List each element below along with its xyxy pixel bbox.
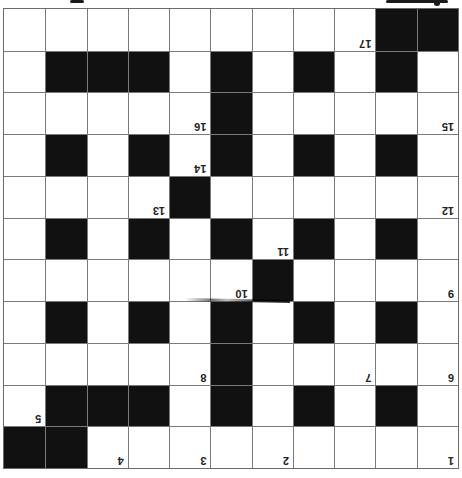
grid-cell[interactable] <box>252 343 293 385</box>
grid-cell[interactable] <box>417 301 458 343</box>
grid-cell[interactable] <box>169 385 210 427</box>
grid-cell[interactable] <box>87 218 128 260</box>
black-cell <box>128 301 169 343</box>
grid-cell[interactable]: 1 <box>417 426 458 468</box>
grid-cell[interactable] <box>293 343 334 385</box>
grid-cell[interactable] <box>87 134 128 176</box>
grid-cell[interactable]: 8 <box>169 343 210 385</box>
grid-cell[interactable]: 14 <box>169 134 210 176</box>
grid-cell[interactable] <box>334 426 375 468</box>
grid-cell[interactable] <box>210 426 251 468</box>
grid-cell[interactable] <box>293 92 334 134</box>
grid-cell[interactable]: 6 <box>417 343 458 385</box>
grid-cell[interactable]: 2 <box>252 426 293 468</box>
grid-cell[interactable] <box>87 343 128 385</box>
black-cell <box>375 301 416 343</box>
grid-cell[interactable]: 17 <box>334 9 375 51</box>
grid-cell[interactable]: 9 <box>417 259 458 301</box>
grid-cell[interactable] <box>417 218 458 260</box>
grid-cell[interactable] <box>334 176 375 218</box>
grid-cell[interactable] <box>252 134 293 176</box>
grid-cell[interactable] <box>417 134 458 176</box>
cut-off-heading-fragment-left <box>70 0 84 3</box>
grid-cell[interactable] <box>252 301 293 343</box>
grid-cell[interactable] <box>4 259 45 301</box>
grid-cell[interactable] <box>87 259 128 301</box>
grid-cell[interactable] <box>334 259 375 301</box>
grid-cell[interactable] <box>375 343 416 385</box>
grid-cell[interactable] <box>252 176 293 218</box>
grid-cell[interactable] <box>4 92 45 134</box>
grid-cell[interactable] <box>334 134 375 176</box>
grid-cell[interactable] <box>4 176 45 218</box>
grid-cell[interactable] <box>87 301 128 343</box>
grid-cell[interactable] <box>128 343 169 385</box>
black-cell <box>293 301 334 343</box>
grid-cell[interactable] <box>87 9 128 51</box>
grid-cell[interactable] <box>128 259 169 301</box>
grid-cell[interactable] <box>334 92 375 134</box>
grid-cell[interactable]: 11 <box>252 218 293 260</box>
grid-cell[interactable]: 16 <box>169 92 210 134</box>
grid-cell[interactable] <box>334 301 375 343</box>
grid-cell[interactable] <box>169 218 210 260</box>
black-cell <box>4 426 45 468</box>
clue-number: 14 <box>194 163 206 174</box>
grid-cell[interactable] <box>4 51 45 93</box>
clue-number: 15 <box>442 121 454 132</box>
grid-cell[interactable] <box>252 92 293 134</box>
grid-cell[interactable] <box>252 51 293 93</box>
grid-cell[interactable] <box>4 9 45 51</box>
grid-cell[interactable] <box>375 259 416 301</box>
grid-cell[interactable] <box>87 176 128 218</box>
grid-cell[interactable] <box>169 9 210 51</box>
grid-cell[interactable] <box>45 176 86 218</box>
grid-cell[interactable] <box>45 259 86 301</box>
grid-cell[interactable] <box>375 176 416 218</box>
grid-cell[interactable] <box>128 92 169 134</box>
grid-cell[interactable] <box>210 176 251 218</box>
grid-cell[interactable] <box>417 385 458 427</box>
grid-cell[interactable]: 5 <box>4 385 45 427</box>
grid-cell[interactable] <box>252 385 293 427</box>
grid-cell[interactable] <box>210 9 251 51</box>
grid-cell[interactable]: 15 <box>417 92 458 134</box>
grid-cell[interactable]: 10 <box>210 259 251 301</box>
grid-cell[interactable] <box>334 385 375 427</box>
grid-cell[interactable] <box>169 301 210 343</box>
clue-number: 7 <box>365 372 371 383</box>
grid-cell[interactable] <box>169 259 210 301</box>
grid-cell[interactable] <box>4 301 45 343</box>
grid-cell[interactable]: 4 <box>87 426 128 468</box>
black-cell <box>293 134 334 176</box>
grid-cell[interactable] <box>128 9 169 51</box>
grid-cell[interactable] <box>252 9 293 51</box>
grid-cell[interactable] <box>4 218 45 260</box>
grid-cell[interactable] <box>375 92 416 134</box>
grid-cell[interactable] <box>128 426 169 468</box>
grid-cell[interactable] <box>293 426 334 468</box>
grid-cell[interactable] <box>45 343 86 385</box>
grid-cell[interactable] <box>4 343 45 385</box>
grid-cell[interactable]: 12 <box>417 176 458 218</box>
grid-cell[interactable] <box>293 259 334 301</box>
grid-cell[interactable] <box>375 426 416 468</box>
grid-cell[interactable]: 7 <box>334 343 375 385</box>
grid-cell[interactable] <box>87 92 128 134</box>
black-cell <box>45 51 86 93</box>
grid-cell[interactable] <box>45 9 86 51</box>
black-cell <box>417 9 458 51</box>
grid-cell[interactable] <box>169 51 210 93</box>
grid-cell[interactable] <box>293 176 334 218</box>
grid-cell[interactable] <box>417 51 458 93</box>
grid-cell[interactable] <box>334 51 375 93</box>
grid-cell[interactable]: 13 <box>128 176 169 218</box>
grid-cell[interactable] <box>45 92 86 134</box>
grid-cell[interactable] <box>293 9 334 51</box>
cut-off-heading-fragment-dot <box>434 1 440 6</box>
grid-cell[interactable] <box>4 134 45 176</box>
black-cell <box>293 218 334 260</box>
black-cell <box>128 385 169 427</box>
grid-cell[interactable] <box>334 218 375 260</box>
grid-cell[interactable]: 3 <box>169 426 210 468</box>
